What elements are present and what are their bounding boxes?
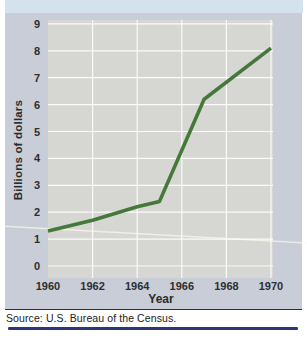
x-tick-label: 1960 xyxy=(36,280,60,292)
y-tick-label: 3 xyxy=(34,179,40,191)
figure-page: 0123456789196019621964196619681970 Billi… xyxy=(0,0,307,340)
source-caption: Source: U.S. Bureau of the Census. xyxy=(6,312,176,324)
y-tick-label: 5 xyxy=(34,126,40,138)
x-tick-label: 1970 xyxy=(259,280,283,292)
y-tick-label: 4 xyxy=(34,152,41,164)
y-tick-label: 1 xyxy=(34,233,40,245)
x-tick-label: 1966 xyxy=(170,280,194,292)
x-axis-title: Year xyxy=(148,292,173,306)
y-tick-label: 2 xyxy=(34,206,40,218)
y-tick-label: 7 xyxy=(34,72,40,84)
x-tick-label: 1964 xyxy=(125,280,150,292)
line-chart: 0123456789196019621964196619681970 xyxy=(0,0,307,340)
x-tick-label: 1962 xyxy=(80,280,104,292)
bottom-accent-rule xyxy=(8,327,298,330)
y-tick-label: 8 xyxy=(34,45,40,57)
y-axis-title: Billions of dollars xyxy=(12,100,24,200)
y-tick-label: 6 xyxy=(34,99,40,111)
x-tick-label: 1968 xyxy=(214,280,238,292)
y-tick-label: 0 xyxy=(34,260,40,272)
y-tick-label: 9 xyxy=(34,18,40,30)
